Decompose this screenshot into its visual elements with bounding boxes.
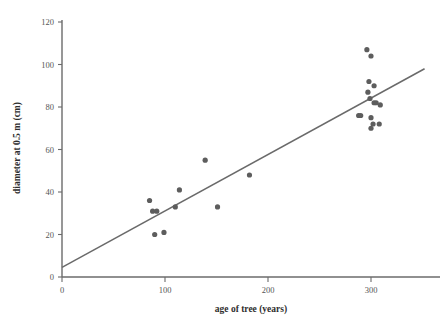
data-point: [378, 102, 383, 107]
y-tick-label: 40: [46, 187, 55, 197]
x-axis-title: age of tree (years): [215, 304, 287, 315]
data-point: [177, 187, 182, 192]
y-axis-title: diameter at 0.5 m (cm): [12, 102, 23, 194]
data-point: [215, 204, 220, 209]
data-point: [161, 230, 166, 235]
x-tick-label: 0: [60, 285, 64, 295]
data-point: [366, 79, 371, 84]
y-tick-label: 100: [41, 60, 54, 70]
data-point: [364, 47, 369, 52]
axes-group: [62, 20, 440, 277]
data-point: [358, 113, 363, 118]
data-point: [152, 232, 157, 237]
y-tick-label: 60: [46, 145, 55, 155]
data-point: [147, 198, 152, 203]
x-axis-ticks: 0100200300: [60, 277, 378, 295]
x-tick-label: 100: [159, 285, 172, 295]
data-point: [377, 121, 382, 126]
scatter-plot: 020406080100120 0100200300 age of tree (…: [0, 0, 444, 327]
data-point: [368, 53, 373, 58]
y-tick-label: 120: [41, 17, 54, 27]
data-point: [371, 83, 376, 88]
data-point: [247, 172, 252, 177]
chart-figure: 020406080100120 0100200300 age of tree (…: [0, 0, 444, 327]
y-tick-label: 80: [46, 102, 55, 112]
data-point: [368, 115, 373, 120]
data-point: [203, 158, 208, 163]
data-point: [173, 204, 178, 209]
data-point: [154, 209, 159, 214]
x-tick-label: 300: [365, 285, 378, 295]
x-tick-label: 200: [262, 285, 275, 295]
data-points-group: [147, 47, 383, 237]
data-point: [365, 90, 370, 95]
y-tick-label: 0: [50, 272, 54, 282]
y-axis-ticks: 020406080100120: [41, 17, 62, 282]
y-tick-label: 20: [46, 230, 55, 240]
data-point: [367, 96, 372, 101]
data-point: [368, 126, 373, 131]
